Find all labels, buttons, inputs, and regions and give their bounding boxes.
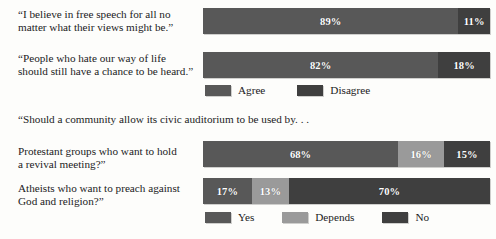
row-label-line-1: “People who hate our way of life xyxy=(18,52,190,65)
stacked-bar-free-speech: 89% 11% xyxy=(203,8,490,34)
stacked-bar-hate-our-way-of-life: 82% 18% xyxy=(203,52,490,78)
legend-label-agree: Agree xyxy=(238,84,265,96)
chart-figure: “I believe in free speech for all no mat… xyxy=(0,0,496,239)
bar-segment-depends: 13% xyxy=(252,178,289,204)
legend-swatch-disagree-icon xyxy=(297,85,323,96)
bar-segment-depends: 16% xyxy=(398,141,444,167)
bar-segment-agree: 89% xyxy=(203,8,458,34)
row-label-hate-our-way-of-life: “People who hate our way of life should … xyxy=(0,52,190,79)
row-label-line-2: God and religion?” xyxy=(18,195,190,208)
legend-label-no: No xyxy=(415,211,429,223)
legend-swatch-yes-icon xyxy=(205,212,231,223)
bar-segment-yes: 68% xyxy=(203,141,398,167)
stacked-bar-protestant-revival: 68% 16% 15% xyxy=(203,141,490,167)
legend-yes-depends-no: Yes Depends No xyxy=(205,211,429,223)
row-label-line-1: Atheists who want to preach against xyxy=(18,182,190,195)
row-label-free-speech: “I believe in free speech for all no mat… xyxy=(0,8,190,35)
row-label-line-1: “I believe in free speech for all no xyxy=(18,8,190,21)
bar-segment-disagree: 18% xyxy=(438,52,490,78)
bar-segment-no: 15% xyxy=(444,141,490,167)
legend-swatch-agree-icon xyxy=(205,85,231,96)
legend-label-yes: Yes xyxy=(238,211,254,223)
legend-item-no: No xyxy=(382,211,429,223)
row-label-line-2: matter what their views might be.” xyxy=(18,21,190,34)
section-heading-civic-auditorium: “Should a community allow its civic audi… xyxy=(18,113,309,126)
legend-item-depends: Depends xyxy=(282,211,354,223)
legend-item-disagree: Disagree xyxy=(297,84,370,96)
bar-segment-agree: 82% xyxy=(203,52,438,78)
row-label-line-1: Protestant groups who want to hold xyxy=(18,145,190,158)
bar-segment-yes: 17% xyxy=(203,178,252,204)
legend-item-agree: Agree xyxy=(205,84,265,96)
row-label-line-2: a revival meeting?” xyxy=(18,158,190,171)
legend-agree-disagree: Agree Disagree xyxy=(205,84,370,96)
bar-segment-disagree: 11% xyxy=(458,8,490,34)
bar-segment-no: 70% xyxy=(289,178,490,204)
legend-item-yes: Yes xyxy=(205,211,254,223)
legend-swatch-depends-icon xyxy=(282,212,308,223)
stacked-bar-atheists-preach: 17% 13% 70% xyxy=(203,178,490,204)
row-label-protestant-revival: Protestant groups who want to hold a rev… xyxy=(0,145,190,172)
row-label-atheists-preach: Atheists who want to preach against God … xyxy=(0,182,190,209)
legend-label-depends: Depends xyxy=(315,211,354,223)
legend-label-disagree: Disagree xyxy=(330,84,370,96)
row-label-line-2: should still have a chance to be heard.” xyxy=(18,65,190,78)
legend-swatch-no-icon xyxy=(382,212,408,223)
